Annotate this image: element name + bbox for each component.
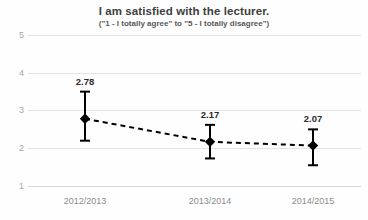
data-point-marker <box>308 140 318 150</box>
x-axis-tick-2012-2013: 2012/2013 <box>40 196 130 206</box>
data-label-point-2: 2.17 <box>185 109 235 120</box>
data-label-point-1: 2.78 <box>60 76 110 87</box>
chart-container: I am satisfied with the lecturer. ("1 - … <box>0 0 368 220</box>
plot-area: 5 4 3 2 1 2.78 2.17 2.07 2012/2013 2013/… <box>0 0 368 220</box>
data-point-marker <box>80 114 90 124</box>
data-series-layer <box>0 0 368 220</box>
data-point-marker <box>205 137 215 147</box>
series-line <box>85 119 313 146</box>
x-axis-tick-2014-2015: 2014/2015 <box>268 196 358 206</box>
data-label-point-3: 2.07 <box>288 113 338 124</box>
x-axis-tick-2013-2014: 2013/2014 <box>165 196 255 206</box>
